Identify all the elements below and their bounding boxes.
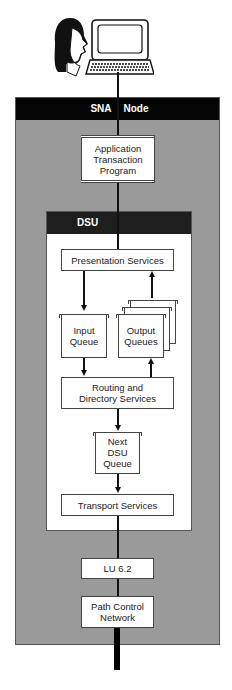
lu-6-2-box: LU 6.2 <box>81 558 154 579</box>
arrow-up-icon <box>149 271 155 277</box>
next-dsu-queue-line-3: Queue <box>103 458 132 469</box>
input-queue-box: Input Queue <box>61 314 107 358</box>
user-at-terminal-illustration <box>50 14 154 80</box>
output-queues-box: Output Queues <box>118 314 164 358</box>
connector-output-queues-to-presentation <box>151 277 153 298</box>
path-control-line-1: Path Control <box>91 601 144 612</box>
connector-next-dsu-queue-to-transport <box>117 474 119 488</box>
next-dsu-queue-line-2: DSU <box>107 447 127 458</box>
routing-line-1: Routing and <box>92 382 143 393</box>
next-dsu-queue-box: Next DSU Queue <box>95 432 140 474</box>
routing-line-2: Directory Services <box>79 393 156 404</box>
network-link-line <box>114 628 120 670</box>
computer-terminal-icon <box>86 20 154 74</box>
arrow-down-icon <box>81 370 87 376</box>
presentation-services-label: Presentation Services <box>71 255 163 266</box>
connector-terminal-to-atp <box>117 72 119 135</box>
sna-node-title-right: Node <box>124 98 149 120</box>
connector-through-dsu-header <box>117 211 119 249</box>
transport-services-label: Transport Services <box>78 500 157 511</box>
person-head-icon <box>55 18 88 76</box>
path-control-line-2: Network <box>100 612 135 623</box>
input-queue-line-1: Input <box>73 325 94 336</box>
connector-routing-to-next-dsu-queue <box>117 409 119 426</box>
arrow-down-icon <box>115 487 121 493</box>
arrow-down-icon <box>81 305 87 311</box>
presentation-services-box: Presentation Services <box>61 249 174 271</box>
application-transaction-program-box: Application Transaction Program <box>81 135 155 183</box>
path-control-network-box: Path Control Network <box>81 596 154 628</box>
arrow-down-icon <box>115 425 121 431</box>
connector-presentation-to-input-queue <box>83 271 85 306</box>
atp-line-1: Application <box>95 143 141 154</box>
connector-routing-to-output-queues <box>150 364 152 377</box>
connector-transport-to-lu <box>117 516 119 558</box>
arrow-up-icon <box>148 358 154 364</box>
output-queues-line-1: Output <box>127 325 156 336</box>
lu-label: LU 6.2 <box>104 563 132 574</box>
atp-line-3: Program <box>100 165 136 176</box>
dsu-header: DSU <box>47 212 191 234</box>
atp-line-2: Transaction <box>93 154 142 165</box>
dsu-title: DSU <box>77 212 98 234</box>
output-queues-line-2: Queues <box>124 336 157 347</box>
connector-lu-to-path-control <box>117 579 119 596</box>
transport-services-box: Transport Services <box>61 494 174 516</box>
next-dsu-queue-line-1: Next <box>108 436 128 447</box>
routing-directory-services-box: Routing and Directory Services <box>61 377 174 409</box>
sna-node-title-left: SNA <box>90 98 111 120</box>
input-queue-line-2: Queue <box>70 336 99 347</box>
